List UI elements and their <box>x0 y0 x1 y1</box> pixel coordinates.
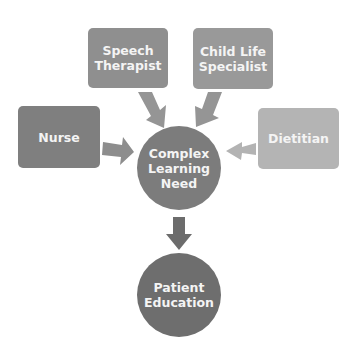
node-label: Specialist <box>199 59 268 74</box>
arrow-speech-to-complex <box>138 92 166 128</box>
node-speech-therapist: Speech Therapist <box>88 28 168 88</box>
arrow-dietitian-to-complex <box>226 142 256 160</box>
node-child-life-specialist: Child Life Specialist <box>193 28 273 89</box>
arrow-childlife-to-complex <box>195 92 222 127</box>
node-dietitian: Dietitian <box>258 108 339 169</box>
node-complex-learning-need: Complex Learning Need <box>137 126 221 210</box>
node-label: Therapist <box>94 58 161 73</box>
node-label: Nurse <box>38 130 79 145</box>
arrow-nurse-to-complex <box>102 137 134 165</box>
node-label: Complex <box>148 146 210 161</box>
node-label: Speech <box>94 43 161 58</box>
node-label: Child Life <box>199 44 268 59</box>
node-label: Dietitian <box>268 131 329 146</box>
node-label: Education <box>144 295 214 310</box>
node-nurse: Nurse <box>18 106 100 168</box>
node-patient-education: Patient Education <box>137 253 221 337</box>
node-label: Learning <box>148 161 210 176</box>
arrow-complex-to-patient <box>166 217 192 250</box>
node-label: Patient <box>144 280 214 295</box>
node-label: Need <box>148 176 210 191</box>
